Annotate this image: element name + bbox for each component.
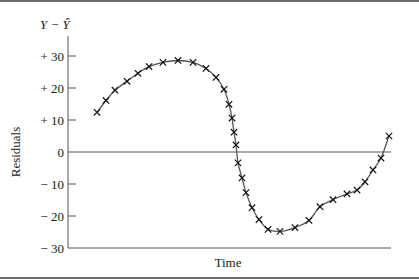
x-axis-title: Time — [215, 255, 242, 270]
y-axis-title: Residuals — [8, 127, 23, 178]
x-marker-icon — [103, 97, 109, 103]
y-tick-label: − 30 — [40, 241, 64, 256]
x-marker-icon — [124, 78, 130, 84]
x-marker-icon — [135, 70, 141, 76]
y-tick-label: − 10 — [40, 177, 64, 192]
y-tick-label: + 20 — [40, 81, 64, 96]
x-marker-icon — [354, 187, 360, 193]
residual-markers — [94, 57, 392, 234]
x-marker-icon — [330, 196, 336, 202]
x-marker-icon — [344, 191, 350, 197]
x-marker-icon — [306, 217, 312, 223]
x-marker-icon — [292, 224, 298, 230]
x-marker-icon — [362, 179, 368, 185]
y-tick-label: + 30 — [40, 49, 64, 64]
x-marker-icon — [256, 216, 262, 222]
y-tick-label: − 20 — [40, 209, 64, 224]
x-marker-icon — [317, 204, 323, 210]
x-marker-icon — [378, 155, 384, 161]
x-marker-icon — [221, 86, 227, 92]
x-marker-icon — [213, 74, 219, 80]
x-marker-icon — [94, 109, 100, 115]
x-marker-icon — [249, 204, 255, 210]
y-tick-label: + 10 — [40, 113, 64, 128]
y-tick-label: 0 — [58, 145, 65, 160]
x-marker-icon — [370, 167, 376, 173]
x-marker-icon — [243, 189, 249, 195]
x-marker-icon — [112, 87, 118, 93]
x-marker-icon — [203, 65, 209, 71]
x-marker-icon — [265, 226, 271, 232]
residual-curve — [97, 60, 389, 231]
residual-plot: Y − Ŷ Residuals Time + 30+ 20+ 100− 10− … — [0, 0, 419, 280]
y-top-label: Y − Ŷ — [40, 17, 72, 32]
x-marker-icon — [146, 63, 152, 69]
x-marker-icon — [386, 133, 392, 139]
